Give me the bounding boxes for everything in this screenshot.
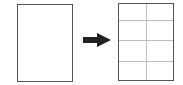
grid-row-divider [119, 40, 173, 41]
blank-page [17, 4, 73, 82]
right-arrow-icon [83, 33, 111, 47]
grid-row-divider [119, 61, 173, 62]
grid-row-divider [119, 20, 173, 21]
grid-vertical-divider [146, 4, 147, 80]
grid-page [118, 3, 174, 81]
